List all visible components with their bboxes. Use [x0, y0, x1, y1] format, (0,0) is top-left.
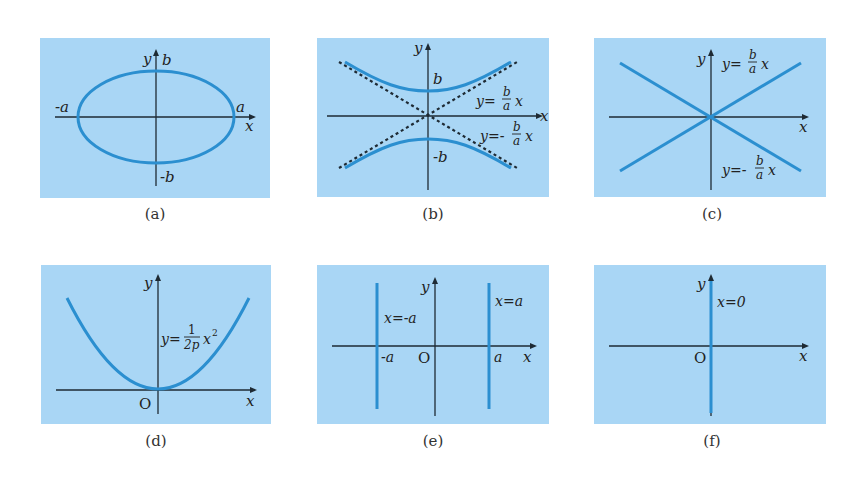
label-x-eq-a: x=a [495, 293, 523, 309]
caption-c: (c) [682, 205, 742, 223]
svg-text:a: a [513, 134, 520, 148]
x-axis-label: x [799, 347, 808, 365]
caption-f: (f) [682, 432, 742, 450]
svg-text:b: b [749, 48, 757, 62]
svg-text:2p: 2p [183, 338, 200, 352]
caption-b: (b) [403, 205, 463, 223]
svg-text:b: b [756, 154, 764, 168]
svg-text:x: x [525, 128, 533, 144]
panel-d-parabola: y O x y= 1 2p x 2 [41, 265, 271, 424]
origin-label: O [418, 349, 430, 367]
label-a: a [236, 98, 245, 116]
origin-label: O [694, 349, 706, 367]
label-b: b [433, 70, 443, 88]
x-axis-label: x [799, 118, 808, 136]
x-axis-label: x [245, 117, 254, 135]
x-axis-label: x [246, 392, 255, 410]
origin-label: O [139, 395, 151, 413]
panel-f-single-line: y x=0 O x [594, 265, 826, 424]
svg-text:a: a [503, 99, 510, 113]
svg-text:x: x [768, 162, 776, 178]
label-x-eq-0: x=0 [717, 294, 746, 310]
x-axis-label: x [523, 348, 532, 366]
svg-text:a: a [756, 168, 763, 182]
svg-text:2: 2 [212, 328, 218, 338]
svg-text:y=: y= [475, 93, 496, 109]
y-axis-label: y [142, 50, 152, 68]
panel-background [317, 265, 549, 424]
label-x-eq-neg-a: x=-a [384, 310, 417, 326]
label-neg-b: -b [433, 148, 448, 166]
svg-text:b: b [503, 85, 511, 99]
caption-e: (e) [403, 432, 463, 450]
svg-text:1: 1 [188, 323, 196, 337]
svg-text:x: x [203, 331, 211, 347]
y-axis-label: y [143, 274, 153, 292]
svg-text:a: a [749, 62, 756, 76]
caption-d: (d) [126, 432, 186, 450]
tick-neg-a: -a [381, 349, 394, 365]
label-b: b [162, 51, 172, 69]
panel-c-line-pair: y x y= b a x y=- b a x [594, 38, 826, 197]
svg-text:y=: y= [160, 331, 181, 347]
y-axis-label: y [696, 50, 706, 68]
label-neg-b: -b [160, 168, 175, 186]
label-neg-a: -a [55, 98, 69, 116]
svg-text:b: b [513, 120, 521, 134]
panel-b-hyperbola: y b -b x y= b a x y=- b a x [317, 38, 549, 197]
svg-text:y=: y= [721, 56, 742, 72]
tick-a: a [494, 349, 502, 365]
panel-background [40, 38, 270, 198]
y-axis-label: y [420, 278, 430, 296]
y-axis-label: y [696, 275, 706, 293]
svg-text:y=-: y=- [479, 128, 505, 144]
caption-a: (a) [125, 205, 185, 223]
y-axis-label: y [413, 39, 423, 57]
svg-text:x: x [761, 56, 769, 72]
x-axis-label: x [540, 107, 549, 125]
svg-text:y=-: y=- [721, 162, 747, 178]
svg-text:x: x [515, 93, 523, 109]
panel-e-parallel-lines: y x=-a x=a -a O a x [317, 265, 549, 424]
panel-background [41, 265, 271, 424]
panel-a-ellipse: y b -b -a a x [40, 38, 270, 198]
